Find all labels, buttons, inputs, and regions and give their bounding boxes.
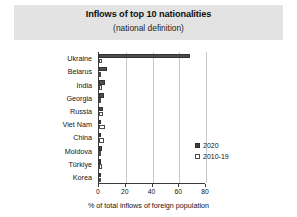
bar-2010-19[interactable]	[99, 151, 101, 156]
legend-label: 2020	[203, 142, 219, 149]
bar-2010-19[interactable]	[99, 72, 101, 77]
x-axis-tick-mark	[178, 184, 179, 187]
bar-2020[interactable]	[99, 173, 101, 178]
bar-group	[99, 171, 205, 184]
legend-swatch-2020-icon	[195, 143, 200, 148]
y-axis-tick-label: Viet Nam	[30, 118, 95, 131]
chart-container: UkraineBelarusIndiaGeorgiaRussiaViet Nam…	[0, 46, 297, 217]
x-axis-tick-label: 40	[148, 188, 156, 195]
y-axis-tick-label: Korea	[30, 171, 95, 184]
bar-2020[interactable]	[99, 107, 103, 112]
plot-area	[98, 52, 205, 184]
y-axis-tick-label: Moldova	[30, 144, 95, 157]
bar-group	[99, 144, 205, 157]
bar-group	[99, 118, 205, 131]
bar-2010-19[interactable]	[99, 112, 103, 117]
x-axis-tick-label: 0	[96, 188, 100, 195]
bar-2010-19[interactable]	[99, 59, 102, 64]
bar-2010-19[interactable]	[99, 98, 101, 103]
legend-item: 2010-19	[195, 153, 229, 160]
x-axis-tick-mark	[205, 184, 206, 187]
x-axis-tick-mark	[125, 184, 126, 187]
bar-group	[99, 78, 205, 91]
y-axis-tick-label: China	[30, 131, 95, 144]
x-axis-tick-mark	[98, 184, 99, 187]
chart-legend: 2020 2010-19	[195, 142, 229, 164]
x-axis-tick-label: 60	[174, 188, 182, 195]
bar-2020[interactable]	[99, 93, 104, 98]
y-axis-tick-label: Russia	[30, 105, 95, 118]
bar-2020[interactable]	[99, 133, 101, 138]
bar-2010-19[interactable]	[99, 164, 102, 169]
x-axis-tick-label: 20	[121, 188, 129, 195]
y-axis-tick-label: Georgia	[30, 92, 95, 105]
bar-group	[99, 92, 205, 105]
x-axis-tick-mark	[152, 184, 153, 187]
bar-group	[99, 65, 205, 78]
bar-2020[interactable]	[99, 67, 107, 72]
x-axis-tick-label: 80	[201, 188, 209, 195]
bar-2010-19[interactable]	[99, 85, 102, 90]
bar-group	[99, 158, 205, 171]
y-axis-tick-label: Türkiye	[30, 158, 95, 171]
y-axis-category-labels: UkraineBelarusIndiaGeorgiaRussiaViet Nam…	[30, 52, 95, 184]
bar-2010-19[interactable]	[99, 125, 105, 130]
title-band: Inflows of top 10 nationalities (nationa…	[14, 5, 283, 40]
bar-2010-19[interactable]	[99, 178, 101, 183]
y-axis-tick-label: India	[30, 78, 95, 91]
bar-2020[interactable]	[99, 54, 190, 59]
bar-2020[interactable]	[99, 80, 105, 85]
bar-group	[99, 105, 205, 118]
y-axis-tick-label: Ukraine	[30, 52, 95, 65]
page-title: Inflows of top 10 nationalities	[14, 8, 283, 20]
legend-swatch-2010-19-icon	[195, 154, 200, 159]
bar-2010-19[interactable]	[99, 138, 104, 143]
bar-group	[99, 131, 205, 144]
legend-label: 2010-19	[203, 153, 229, 160]
bar-2020[interactable]	[99, 159, 101, 164]
y-axis-tick-label: Belarus	[30, 65, 95, 78]
bar-group	[99, 52, 205, 65]
legend-item: 2020	[195, 142, 229, 149]
bar-2020[interactable]	[99, 120, 101, 125]
bar-2020[interactable]	[99, 146, 102, 151]
x-axis-label: % of total inflows of foreign population	[0, 201, 297, 210]
chart-subtitle: (national definition)	[14, 22, 283, 34]
